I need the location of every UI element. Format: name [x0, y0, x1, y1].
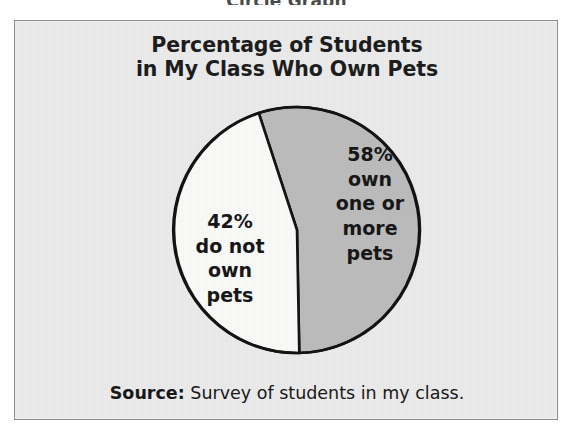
pie-label-own-line-4: pets — [305, 241, 435, 266]
pie-label-own-percent: 58% — [305, 142, 435, 167]
pie-label-notown-line-2: own — [165, 258, 295, 283]
pie-label-do-not-own: 42% do not own pets — [165, 209, 295, 308]
pie-label-notown-percent: 42% — [165, 209, 295, 234]
pie-label-own-line-3: more — [305, 216, 435, 241]
source-label: Source: — [110, 383, 185, 403]
cutoff-page-header: Circle Graph — [0, 0, 573, 5]
pie-label-own-line-1: own — [305, 167, 435, 192]
source-note: Source: Survey of students in my class. — [15, 383, 558, 403]
figure-frame: Percentage of Students in My Class Who O… — [14, 20, 558, 420]
pie-label-notown-line-3: pets — [165, 283, 295, 308]
pie-label-own-line-2: one or — [305, 191, 435, 216]
source-text: Survey of students in my class. — [185, 383, 465, 403]
pie-chart: 58% own one or more pets 42% do not own … — [15, 21, 558, 420]
scanned-page: Circle Graph Percentage of Students in M… — [0, 0, 573, 438]
pie-label-notown-line-1: do not — [165, 234, 295, 259]
pie-label-own-one-or-more: 58% own one or more pets — [305, 142, 435, 265]
